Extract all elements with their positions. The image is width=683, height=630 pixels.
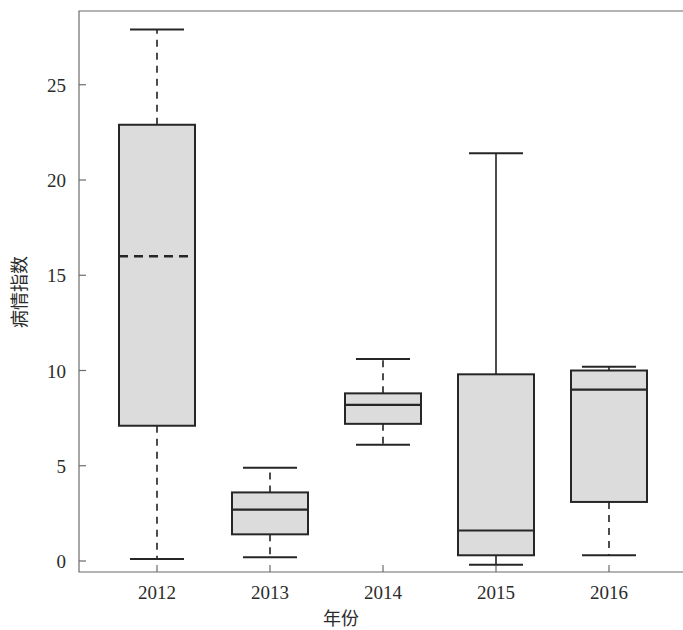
box-2013 [232,468,308,558]
boxplot-svg: 0510152025 20122013201420152016 年份病情指数 [0,0,683,630]
y-tick-group: 0510152025 [47,75,86,572]
x-tick-label-2016: 2016 [590,582,628,603]
x-tick-group: 20122013201420152016 [138,565,628,603]
y-tick-label: 10 [47,361,66,382]
y-tick-label: 5 [57,456,67,477]
box-2016 [571,367,647,556]
box-body [458,374,534,555]
box-body [119,125,195,426]
box-body [232,492,308,534]
y-tick-label: 25 [47,75,66,96]
y-tick-label: 20 [47,170,66,191]
y-tick-label: 15 [47,265,66,286]
x-axis-title: 年份 [323,608,359,629]
boxplot-figure: 0510152025 20122013201420152016 年份病情指数 [0,0,683,630]
y-axis-title: 病情指数 [9,256,30,328]
box-2014 [345,359,421,445]
x-tick-label-2012: 2012 [138,582,176,603]
x-tick-label-2014: 2014 [364,582,403,603]
box-body [345,393,421,423]
y-tick-label: 0 [57,551,67,572]
box-2015 [458,153,534,564]
x-tick-label-2013: 2013 [251,582,289,603]
box-group [119,30,647,565]
x-tick-label-2015: 2015 [477,582,515,603]
box-2012 [119,30,195,560]
